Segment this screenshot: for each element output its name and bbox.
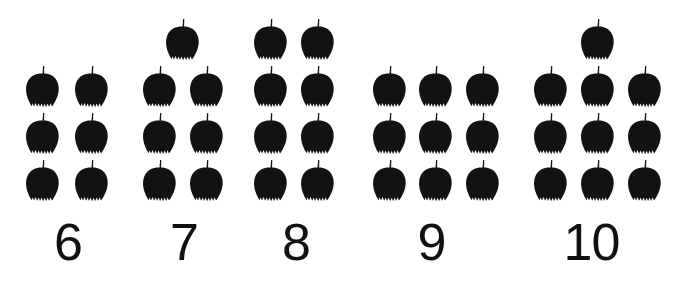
apple-icon bbox=[251, 111, 291, 159]
apple-icon bbox=[298, 158, 338, 206]
apple-icon bbox=[531, 64, 571, 112]
apple-icon bbox=[531, 158, 571, 206]
apple-icon bbox=[251, 17, 291, 65]
apple-icon bbox=[23, 64, 63, 112]
apple-icon bbox=[140, 111, 180, 159]
apple-icon bbox=[463, 111, 503, 159]
apple-icon bbox=[72, 158, 112, 206]
apple-cluster-9 bbox=[350, 0, 513, 215]
apple-icon bbox=[370, 111, 410, 159]
count-label-8: 8 bbox=[228, 216, 364, 268]
apple-icon bbox=[531, 111, 571, 159]
count-label-10: 10 bbox=[510, 216, 673, 268]
count-group-10: 10 bbox=[510, 0, 673, 304]
apple-icon bbox=[23, 111, 63, 159]
apple-icon bbox=[625, 64, 665, 112]
apple-icon bbox=[578, 17, 618, 65]
apple-icon bbox=[72, 111, 112, 159]
apple-icon bbox=[463, 158, 503, 206]
apple-icon bbox=[23, 158, 63, 206]
apple-icon bbox=[578, 111, 618, 159]
apple-icon bbox=[140, 64, 180, 112]
apple-icon bbox=[463, 64, 503, 112]
count-group-9: 9 bbox=[350, 0, 513, 304]
apple-icon bbox=[298, 111, 338, 159]
apple-icon bbox=[251, 158, 291, 206]
apple-cluster-10 bbox=[510, 0, 673, 215]
apple-icon bbox=[140, 158, 180, 206]
counting-worksheet: 678910 bbox=[0, 0, 673, 304]
count-group-8: 8 bbox=[228, 0, 364, 304]
apple-icon bbox=[251, 64, 291, 112]
apple-icon bbox=[187, 158, 227, 206]
apple-icon bbox=[370, 64, 410, 112]
apple-icon bbox=[416, 158, 456, 206]
apple-icon bbox=[298, 64, 338, 112]
apple-icon bbox=[298, 17, 338, 65]
apple-icon bbox=[625, 158, 665, 206]
apple-icon bbox=[370, 158, 410, 206]
apple-icon bbox=[72, 64, 112, 112]
apple-icon bbox=[187, 111, 227, 159]
apple-icon bbox=[625, 111, 665, 159]
apple-icon bbox=[163, 17, 203, 65]
apple-icon bbox=[187, 64, 227, 112]
apple-icon bbox=[578, 64, 618, 112]
apple-icon bbox=[416, 64, 456, 112]
apple-cluster-8 bbox=[228, 0, 364, 215]
apple-icon bbox=[416, 111, 456, 159]
count-label-9: 9 bbox=[350, 216, 513, 268]
apple-icon bbox=[578, 158, 618, 206]
